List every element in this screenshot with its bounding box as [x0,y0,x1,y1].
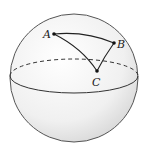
point-c [95,69,99,73]
label-b: B [116,38,125,51]
label-a: A [42,28,51,41]
point-a [52,32,56,36]
point-b [112,41,116,45]
sphere-diagram: A B C [0,0,148,151]
label-c: C [92,76,101,89]
